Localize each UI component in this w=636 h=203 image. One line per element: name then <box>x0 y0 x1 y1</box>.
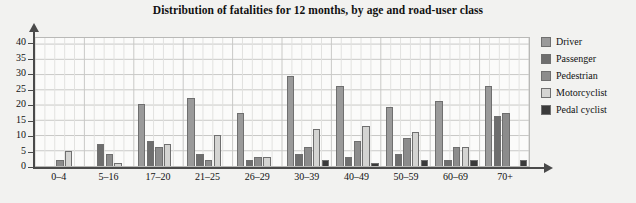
chart-legend: DriverPassengerPedestrianMotorcyclistPed… <box>541 33 636 118</box>
legend-item-label: Pedal cyclist <box>556 104 607 115</box>
y-axis-tick <box>28 74 34 75</box>
y-axis-tick <box>28 136 34 137</box>
legend-item[interactable]: Pedestrian <box>541 67 636 84</box>
y-axis-tick-label: 40 <box>2 36 26 47</box>
x-axis-tick-label: 17–20 <box>133 171 183 182</box>
bar <box>453 147 461 166</box>
y-axis-tick-label: 10 <box>2 129 26 140</box>
bar <box>345 157 353 166</box>
bar-group <box>333 38 383 166</box>
legend-item[interactable]: Pedal cyclist <box>541 101 636 118</box>
bar <box>97 144 105 166</box>
bar-group <box>184 38 234 166</box>
bar <box>470 160 478 166</box>
x-axis-tick-label: 30–39 <box>282 171 332 182</box>
plot-area <box>34 37 530 167</box>
bar-group <box>134 38 184 166</box>
bar <box>403 138 411 166</box>
bar-group <box>233 38 283 166</box>
bar <box>462 147 470 166</box>
bar <box>386 107 394 166</box>
bar <box>56 160 64 166</box>
bar <box>138 104 146 166</box>
y-axis-tick <box>28 90 34 91</box>
bar <box>435 101 443 166</box>
legend-swatch-icon <box>541 37 551 47</box>
y-axis-tick-label: 25 <box>2 83 26 94</box>
bar <box>237 113 245 166</box>
x-axis-tick-label: 40–49 <box>332 171 382 182</box>
bar <box>520 160 528 166</box>
bar <box>421 160 429 166</box>
x-axis-line <box>33 167 545 169</box>
x-axis-tick-label: 70+ <box>480 171 530 182</box>
bar <box>295 154 303 166</box>
bar-group <box>382 38 432 166</box>
bar <box>362 126 370 166</box>
bar-group <box>85 38 135 166</box>
bar <box>287 76 295 166</box>
bar-group <box>35 38 85 166</box>
legend-item-label: Motorcyclist <box>556 87 607 98</box>
legend-item[interactable]: Driver <box>541 33 636 50</box>
x-axis-tick-label: 5–16 <box>84 171 134 182</box>
bar <box>395 154 403 166</box>
x-axis-arrow-icon <box>544 163 553 173</box>
legend-item-label: Driver <box>556 36 582 47</box>
chart-title: Distribution of fatalities for 12 months… <box>0 4 636 16</box>
bar-group <box>481 38 531 166</box>
x-axis-tick-label: 26–29 <box>232 171 282 182</box>
bar <box>494 116 502 166</box>
y-axis-tick <box>28 59 34 60</box>
bar <box>155 147 163 166</box>
bar <box>214 135 222 166</box>
y-axis-tick <box>28 167 34 168</box>
legend-item-label: Pedestrian <box>556 70 598 81</box>
y-axis-line <box>33 30 35 169</box>
bar <box>322 160 330 166</box>
x-axis-tick-label: 21–25 <box>183 171 233 182</box>
y-axis-tick-label: 20 <box>2 98 26 109</box>
bar <box>336 86 344 166</box>
bar-group <box>432 38 482 166</box>
legend-item[interactable]: Passenger <box>541 50 636 67</box>
y-axis-tick <box>28 121 34 122</box>
y-axis-tick <box>28 152 34 153</box>
bar <box>444 160 452 166</box>
y-axis-tick <box>28 43 34 44</box>
legend-swatch-icon <box>541 54 551 64</box>
bar-group <box>283 38 333 166</box>
bar <box>106 154 114 166</box>
bar <box>485 86 493 166</box>
legend-item[interactable]: Motorcyclist <box>541 84 636 101</box>
y-axis-tick <box>28 105 34 106</box>
legend-swatch-icon <box>541 88 551 98</box>
bar <box>114 163 122 166</box>
bar-chart: Distribution of fatalities for 12 months… <box>0 0 636 203</box>
bar <box>147 141 155 166</box>
bar <box>263 157 271 166</box>
bar <box>196 154 204 166</box>
legend-item-label: Passenger <box>556 53 596 64</box>
bar <box>205 160 213 166</box>
x-axis-tick-label: 0–4 <box>34 171 84 182</box>
bars-layer <box>35 38 529 166</box>
bar <box>502 113 510 166</box>
y-axis-tick-label: 30 <box>2 67 26 78</box>
bar <box>412 132 420 166</box>
y-axis-tick-label: 0 <box>2 160 26 171</box>
bar <box>354 141 362 166</box>
legend-swatch-icon <box>541 71 551 81</box>
y-axis-tick-label: 15 <box>2 114 26 125</box>
y-axis-arrow-icon <box>29 23 39 32</box>
bar <box>254 157 262 166</box>
bar <box>313 129 321 166</box>
x-axis-tick-label: 60–69 <box>431 171 481 182</box>
bar <box>371 163 379 166</box>
bar <box>164 144 172 166</box>
y-axis-tick-label: 5 <box>2 145 26 156</box>
x-axis-tick-label: 50–59 <box>381 171 431 182</box>
bar <box>246 160 254 166</box>
y-axis-tick-label: 35 <box>2 52 26 63</box>
bar <box>65 151 73 166</box>
